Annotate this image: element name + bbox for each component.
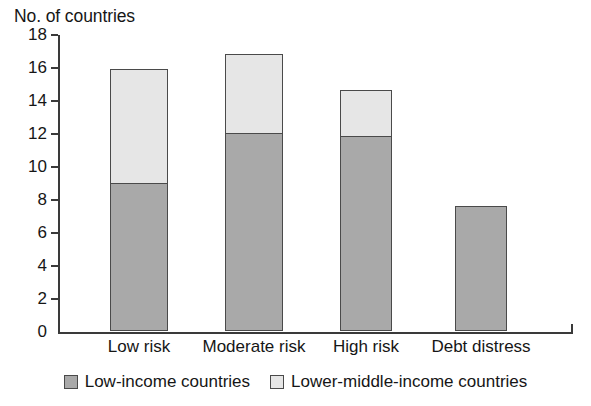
bar-stack bbox=[455, 206, 507, 331]
bar-segment[interactable] bbox=[110, 69, 168, 185]
bar-segment[interactable] bbox=[225, 54, 283, 135]
legend-swatch-icon bbox=[270, 375, 284, 389]
y-axis-tick-label: 2 bbox=[38, 289, 47, 309]
legend-swatch-icon bbox=[64, 375, 78, 389]
y-axis-tick-mark bbox=[51, 232, 58, 234]
legend-item[interactable]: Low-income countries bbox=[64, 372, 250, 392]
x-axis-category-label: Moderate risk bbox=[203, 337, 306, 357]
x-axis-category-label: Low risk bbox=[108, 337, 170, 357]
bar-group[interactable]: Moderate risk bbox=[225, 52, 283, 331]
y-axis-tick-label: 4 bbox=[38, 256, 47, 276]
y-axis-tick-label: 16 bbox=[28, 58, 47, 78]
bar-segment[interactable] bbox=[225, 133, 283, 331]
chart-figure: No. of countries 024681012141618 Low ris… bbox=[0, 0, 591, 406]
legend-label: Low-income countries bbox=[85, 372, 250, 392]
y-axis-tick-label: 12 bbox=[28, 124, 47, 144]
y-axis-tick-label: 6 bbox=[38, 223, 47, 243]
y-axis-tick-mark bbox=[51, 199, 58, 201]
bar-stack bbox=[225, 54, 283, 331]
x-axis-line bbox=[58, 332, 573, 334]
y-axis-tick-mark bbox=[51, 265, 58, 267]
chart-legend: Low-income countriesLower-middle-income … bbox=[0, 372, 591, 392]
y-axis-tick-mark bbox=[51, 133, 58, 135]
y-axis-tick-label: 10 bbox=[28, 157, 47, 177]
bar-segment[interactable] bbox=[340, 136, 392, 331]
x-axis-end-cap bbox=[571, 324, 573, 334]
y-axis-tick-label: 14 bbox=[28, 91, 47, 111]
y-axis-tick-mark bbox=[51, 166, 58, 168]
chart-title: No. of countries bbox=[14, 6, 135, 27]
legend-label: Lower-middle-income countries bbox=[291, 372, 527, 392]
legend-item[interactable]: Lower-middle-income countries bbox=[270, 372, 527, 392]
plot-area: 024681012141618 Low riskModerate riskHig… bbox=[58, 35, 573, 333]
y-axis-line bbox=[58, 35, 60, 334]
bar-group[interactable]: Debt distress bbox=[455, 206, 507, 331]
x-axis-category-label: High risk bbox=[333, 337, 399, 357]
y-axis-tick-mark bbox=[51, 100, 58, 102]
bar-segment[interactable] bbox=[340, 90, 392, 138]
bar-group[interactable]: High risk bbox=[340, 88, 392, 331]
bar-stack bbox=[340, 90, 392, 331]
bar-stack bbox=[110, 69, 168, 331]
y-axis-tick-mark bbox=[51, 298, 58, 300]
y-axis-tick-mark bbox=[51, 67, 58, 69]
y-axis-tick-label: 18 bbox=[28, 25, 47, 45]
y-axis-tick-label: 0 bbox=[38, 322, 47, 342]
x-axis-category-label: Debt distress bbox=[431, 337, 530, 357]
bar-segment[interactable] bbox=[455, 206, 507, 331]
y-axis-tick-label: 8 bbox=[38, 190, 47, 210]
bar-group[interactable]: Low risk bbox=[110, 67, 168, 331]
y-axis-tick-mark bbox=[51, 34, 58, 36]
bar-segment[interactable] bbox=[110, 183, 168, 332]
